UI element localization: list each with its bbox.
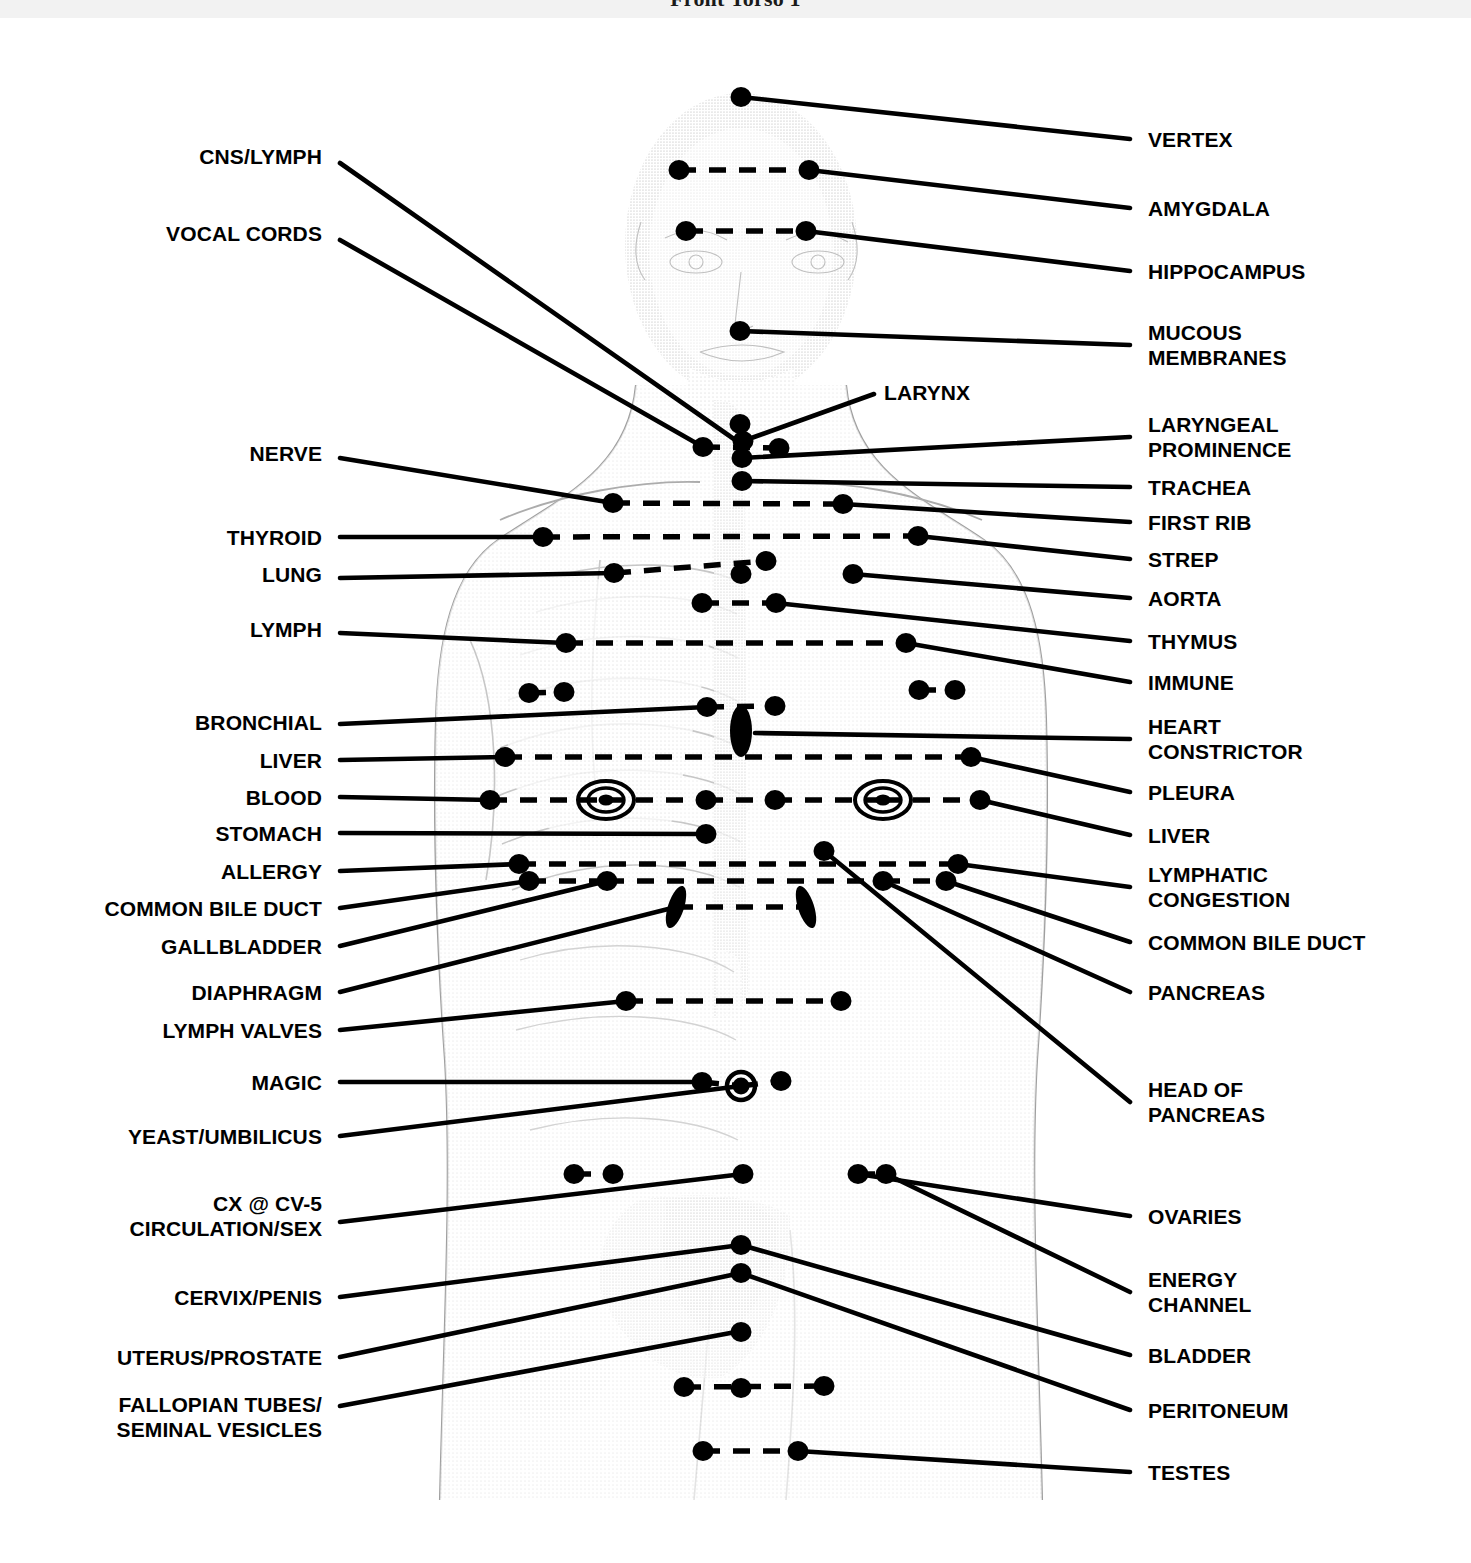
label-liver: LIVER [1148,823,1210,848]
point-marker-dot [796,221,817,241]
point-marker-dot [696,790,717,810]
point-marker-dot [603,493,624,513]
leader-line [340,757,505,760]
label-larynx: LARYNX [884,380,970,405]
point-marker-dot [731,87,752,107]
leader-line [340,833,706,834]
point-marker-dot [769,438,790,458]
point-marker-dot [733,431,754,451]
point-marker-dot [948,854,969,874]
label-amygdala: AMYGDALA [1148,196,1270,221]
point-marker-dot [731,1235,752,1255]
label-liver: LIVER [260,748,322,773]
label-allergy: ALLERGY [221,859,322,884]
point-marker-dot [908,526,929,546]
label-head-of-pancreas: HEAD OF PANCREAS [1148,1077,1265,1127]
label-blood: BLOOD [246,785,322,810]
point-marker-concentric [855,781,911,819]
label-peritoneum: PERITONEUM [1148,1398,1289,1423]
point-marker-dot [669,160,690,180]
label-thymus: THYMUS [1148,629,1237,654]
point-marker-dot [556,633,577,653]
point-marker-dot [896,633,917,653]
label-magic: MAGIC [252,1070,323,1095]
point-marker-dot [848,1164,869,1184]
point-marker-dot [970,790,991,810]
label-hippocampus: HIPPOCAMPUS [1148,259,1305,284]
leader-line [340,458,613,503]
point-marker-dot [799,160,820,180]
diagram-page: Front Torso 1 [0,0,1471,1563]
point-marker-dot [676,221,697,241]
point-marker-dot [814,841,835,861]
point-marker-dot [519,871,540,891]
point-marker-dot [765,696,786,716]
label-energy-channel: ENERGY CHANNEL [1148,1267,1251,1317]
leader-line [340,797,490,800]
point-marker-dot [756,551,777,571]
point-marker-dot [873,871,894,891]
label-lymph-valves: LYMPH VALVES [162,1018,322,1043]
point-marker-dot [909,680,930,700]
point-marker-dot [788,1441,809,1461]
label-gallbladder: GALLBLADDER [161,934,322,959]
label-pleura: PLEURA [1148,780,1235,805]
point-marker-dot [731,1263,752,1283]
point-marker-dot [697,697,718,717]
label-laryngeal-prominence: LARYNGEAL PROMINENCE [1148,412,1291,462]
label-testes: TESTES [1148,1460,1230,1485]
point-marker-dot [597,871,618,891]
point-marker-dot [693,1441,714,1461]
point-marker-dot [554,682,575,702]
label-lymphatic-congestion: LYMPHATIC CONGESTION [1148,862,1290,912]
point-marker-dot [833,494,854,514]
point-marker-dot [730,321,751,341]
point-marker-dot [674,1377,695,1397]
label-immune: IMMUNE [1148,670,1234,695]
label-lung: LUNG [262,562,322,587]
label-nerve: NERVE [250,441,322,466]
label-vocal-cords: VOCAL CORDS [166,221,322,246]
label-stomach: STOMACH [216,821,322,846]
label-pancreas: PANCREAS [1148,980,1265,1005]
label-first-rib: FIRST RIB [1148,510,1252,535]
point-marker-dot [603,1164,624,1184]
point-marker-dot [766,593,787,613]
point-marker-dot [731,1322,752,1342]
point-marker-dot [732,448,753,468]
label-common-bile-duct: COMMON BILE DUCT [105,896,322,921]
label-mucous-membranes: MUCOUS MEMBRANES [1148,320,1287,370]
point-marker-dot [730,414,751,434]
label-trachea: TRACHEA [1148,475,1251,500]
label-fallopian-tubes-seminal-vesicles: FALLOPIAN TUBES/ SEMINAL VESICLES [117,1392,322,1442]
point-marker-dot [771,1071,792,1091]
point-marker-dot [945,680,966,700]
point-marker-dot [533,527,554,547]
label-yeast-umbilicus: YEAST/UMBILICUS [128,1124,322,1149]
point-marker-dot [843,564,864,584]
point-marker-dot [604,563,625,583]
point-marker-dot [616,991,637,1011]
label-vertex: VERTEX [1148,127,1233,152]
label-ovaries: OVARIES [1148,1204,1242,1229]
point-marker-dot [936,871,957,891]
figure-silhouette [435,93,1047,1500]
label-bladder: BLADDER [1148,1343,1251,1368]
point-marker-dot [692,1072,713,1092]
label-cx-cv-5-circulation-sex: CX @ CV-5 CIRCULATION/SEX [130,1191,322,1241]
label-lymph: LYMPH [250,617,322,642]
label-bronchial: BRONCHIAL [195,710,322,735]
point-marker-dot [876,1164,897,1184]
label-uterus-prostate: UTERUS/PROSTATE [117,1345,322,1370]
point-marker-dot [696,824,717,844]
point-marker-dot [495,747,516,767]
label-heart-constrictor: HEART CONSTRICTOR [1148,714,1303,764]
point-marker-dot [831,991,852,1011]
point-marker-dot [732,471,753,491]
point-marker-dot [961,747,982,767]
label-cns-lymph: CNS/LYMPH [199,144,322,169]
point-marker-dot [509,854,530,874]
point-marker-dot [765,790,786,810]
point-marker-dot [733,1164,754,1184]
point-marker-dot [731,564,752,584]
